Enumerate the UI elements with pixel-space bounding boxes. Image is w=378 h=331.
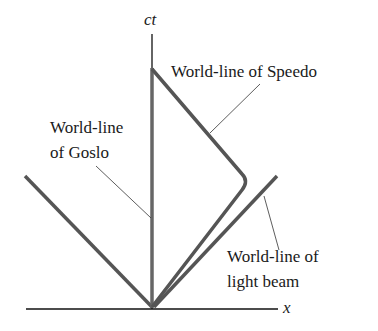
x-axis-label: x: [283, 298, 291, 318]
goslo-leader: [96, 166, 151, 218]
goslo-label-line2: of Goslo: [50, 143, 109, 163]
goslo-label-line1: World-line: [50, 118, 123, 138]
light-cone-left: [25, 176, 152, 307]
speedo-leader: [210, 84, 260, 133]
ct-axis-label: ct: [144, 10, 156, 30]
light-leader: [264, 196, 279, 250]
light-label-line2: light beam: [227, 272, 299, 292]
light-label-line1: World-line of: [227, 247, 319, 267]
speedo-label: World-line of Speedo: [171, 62, 317, 82]
spacetime-diagram: [0, 0, 378, 331]
